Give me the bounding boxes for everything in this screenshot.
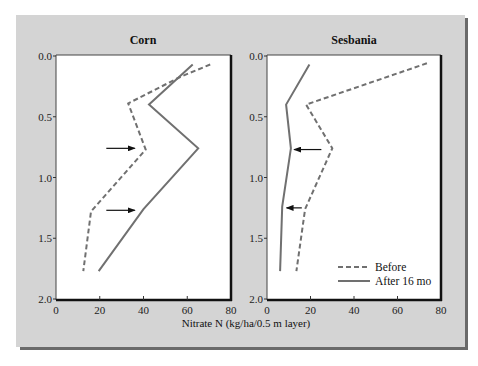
sesbania-y-axis: 0.00.51.01.52.0	[249, 50, 267, 305]
y-tick-label: 1.5	[38, 232, 52, 244]
x-tick-label: 80	[226, 304, 238, 316]
x-axis-label: Nitrate N (kg/ha/0.5 m layer)	[182, 317, 311, 330]
legend-after-label: After 16 mo	[375, 275, 431, 287]
y-tick-label: 1.0	[249, 172, 263, 184]
y-tick-label: 2.0	[249, 293, 263, 305]
x-tick-label: 60	[392, 304, 404, 316]
x-tick-label: 40	[138, 304, 150, 316]
x-tick-label: 20	[305, 304, 317, 316]
corn-y-axis: 0.00.51.01.52.0	[38, 50, 56, 305]
x-tick-label: 80	[436, 304, 448, 316]
x-tick-label: 60	[182, 304, 194, 316]
x-tick-label: 40	[349, 304, 361, 316]
y-tick-label: 0.5	[249, 111, 263, 123]
figure: Corn 0.00.51.01.52.0 020406080 Sesbania …	[0, 0, 478, 366]
x-tick-label: 0	[53, 304, 59, 316]
x-tick-label: 20	[94, 304, 106, 316]
legend-before-label: Before	[375, 261, 406, 273]
y-tick-label: 0.5	[38, 111, 52, 123]
sesbania-plot: Sesbania 0.00.51.01.52.0 020406080 Befor…	[249, 33, 447, 316]
sesbania-title: Sesbania	[331, 33, 376, 47]
y-tick-label: 2.0	[38, 293, 52, 305]
y-tick-label: 1.5	[249, 232, 263, 244]
corn-title: Corn	[130, 33, 157, 47]
y-tick-label: 1.0	[38, 172, 52, 184]
y-tick-label: 0.0	[38, 50, 52, 62]
corn-plot-area	[56, 55, 231, 300]
x-tick-label: 0	[264, 304, 270, 316]
y-tick-label: 0.0	[249, 50, 263, 62]
corn-plot: Corn 0.00.51.01.52.0 020406080	[38, 33, 237, 316]
